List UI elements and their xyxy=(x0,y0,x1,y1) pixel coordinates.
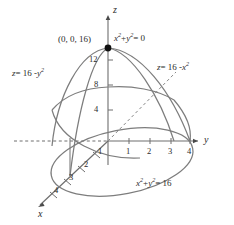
trace-x-exp: 2 xyxy=(186,61,189,67)
base-circle-equation: x2+y2= 16 xyxy=(136,178,172,188)
z-tick-label-4: 4 xyxy=(94,104,98,114)
y-axis-label: y xyxy=(204,134,208,145)
y-tick-label-2: 2 xyxy=(147,146,151,156)
trace-y-eq: = 16 - xyxy=(16,68,38,78)
z-tick-label-8: 8 xyxy=(94,79,98,89)
vertex-point-label: (0, 0, 16) xyxy=(58,34,91,44)
trace-y-equation: z= 16 -y2 xyxy=(12,68,44,78)
y-tick-label-3: 3 xyxy=(168,146,172,156)
vertex-point-marker xyxy=(105,45,112,52)
paraboloid-diagram: z y x (0, 0, 16) x2+y2= 0 z= 16 -x2 z= 1… xyxy=(0,0,234,225)
trace-x-eq: = 16 - xyxy=(161,62,183,72)
x-tick-label-2: 2 xyxy=(84,159,88,169)
trace-z-16-minus-y2-left xyxy=(52,48,108,146)
y-tick-label-1: 1 xyxy=(126,146,130,156)
top-curve-equation: x2+y2= 0 xyxy=(114,33,145,43)
y-axis-arrowhead xyxy=(193,139,198,144)
y-tick-label-4: 4 xyxy=(187,146,191,156)
z-axis-label: z xyxy=(113,4,117,15)
base-eq-rhs: = 16 xyxy=(155,178,171,188)
x-tick-label-4: 4 xyxy=(54,185,58,195)
x-tick-label-1: 1 xyxy=(98,146,102,156)
top-eq-rhs: = 0 xyxy=(133,33,145,43)
trace-y-exp: 2 xyxy=(41,67,44,73)
trace-z-16-minus-x2-front xyxy=(70,48,108,176)
trace-x-equation: z= 16 -x2 xyxy=(157,62,189,72)
z-axis-arrowhead xyxy=(106,15,111,20)
z-tick-label-12: 12 xyxy=(89,54,98,64)
base-circle-curve xyxy=(45,117,199,207)
x-tick-label-3: 3 xyxy=(69,172,73,182)
level-curve-z8-right xyxy=(108,87,174,100)
x-axis-label: x xyxy=(38,208,42,219)
